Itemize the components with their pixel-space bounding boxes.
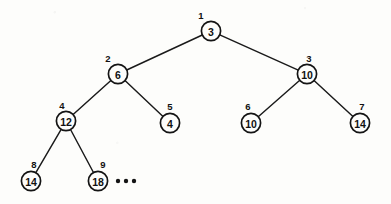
node-index-label: 3 xyxy=(306,53,311,64)
node-index-label: 5 xyxy=(167,101,173,112)
tree-edge xyxy=(36,129,61,172)
ellipsis-dot xyxy=(132,179,136,183)
ellipsis-dot xyxy=(124,179,128,183)
node-index-label: 8 xyxy=(31,159,36,170)
tree-node: 147 xyxy=(350,101,369,133)
node-index-label: 9 xyxy=(100,159,105,170)
node-index-label: 6 xyxy=(245,101,250,112)
node-index-label: 4 xyxy=(59,100,65,111)
node-index-label: 1 xyxy=(198,10,204,21)
tree-edge xyxy=(127,35,203,70)
tree-edge xyxy=(258,80,300,116)
node-value-label: 3 xyxy=(208,26,214,38)
node-value-label: 14 xyxy=(25,176,37,188)
tree-edge xyxy=(220,35,298,70)
tree-diagram-figure: 316210312445106147148189 xyxy=(0,0,391,204)
tree-node: 106 xyxy=(241,101,260,133)
node-value-label: 12 xyxy=(60,116,72,128)
node-value-label: 10 xyxy=(245,118,257,130)
ellipsis-dot xyxy=(116,179,120,183)
node-value-label: 4 xyxy=(167,118,173,130)
tree-edge xyxy=(314,81,353,117)
tree-node: 148 xyxy=(21,159,40,191)
tree-edge xyxy=(71,129,94,172)
tree-node: 62 xyxy=(105,53,127,84)
tree-node: 189 xyxy=(88,159,107,191)
nodes-group: 316210312445106147148189 xyxy=(21,10,369,191)
node-value-label: 10 xyxy=(301,69,313,81)
node-value-label: 14 xyxy=(354,118,366,130)
tree-edge xyxy=(125,81,163,117)
tree-svg-canvas: 316210312445106147148189 xyxy=(0,0,391,204)
node-index-label: 7 xyxy=(359,101,364,112)
node-value-label: 18 xyxy=(92,176,104,188)
ellipsis-group xyxy=(116,179,136,183)
tree-edge xyxy=(73,80,111,114)
tree-node: 103 xyxy=(297,53,316,84)
tree-node: 45 xyxy=(160,101,179,133)
node-index-label: 2 xyxy=(105,53,110,64)
node-value-label: 6 xyxy=(115,69,121,81)
tree-node: 124 xyxy=(56,100,75,131)
